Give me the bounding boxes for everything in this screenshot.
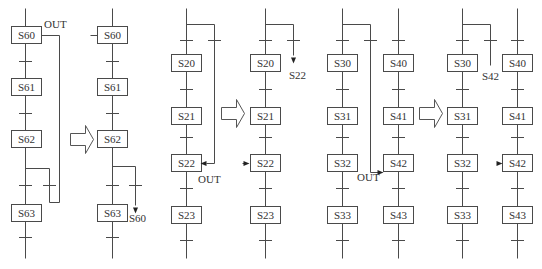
- step-s62: S62: [98, 131, 128, 148]
- step-label: S33: [454, 209, 472, 221]
- out-3-label: OUT: [357, 171, 380, 183]
- step-label: S31: [334, 110, 351, 122]
- step-s60: S60: [12, 27, 42, 44]
- step-label: S60: [104, 29, 122, 41]
- step-label: S32: [454, 157, 471, 169]
- step-s22: S22: [251, 155, 281, 172]
- step-s30: S30: [448, 55, 478, 72]
- step-s23: S23: [172, 207, 202, 224]
- step-s62: S62: [12, 131, 42, 148]
- step-label: S21: [257, 110, 274, 122]
- jump-s42-label: S42: [482, 70, 499, 82]
- step-s20: S20: [172, 55, 202, 72]
- step-label: S31: [454, 110, 471, 122]
- out-1-label: OUT: [44, 18, 67, 30]
- step-label: S42: [390, 157, 407, 169]
- step-s23: S23: [251, 207, 281, 224]
- step-s60: S60: [98, 27, 128, 44]
- out-2-label: OUT: [198, 173, 221, 185]
- step-label: S62: [18, 133, 35, 145]
- step-s31: S31: [448, 108, 478, 125]
- step-label: S22: [257, 157, 274, 169]
- step-label: S41: [509, 110, 526, 122]
- step-label: S42: [509, 157, 526, 169]
- sfc-diagram: S60S61S62S63S60S61S62S63S20S21S22S23S20S…: [0, 0, 542, 269]
- step-boxes: S60S61S62S63S60S61S62S63S20S21S22S23S20S…: [12, 27, 533, 224]
- step-s43: S43: [384, 207, 414, 224]
- step-label: S41: [390, 110, 407, 122]
- step-s33: S33: [448, 207, 478, 224]
- step-s22: S22: [172, 155, 202, 172]
- step-label: S23: [257, 209, 275, 221]
- step-label: S43: [509, 209, 527, 221]
- step-label: S43: [390, 209, 408, 221]
- step-label: S22: [178, 157, 195, 169]
- step-label: S40: [390, 57, 408, 69]
- step-s61: S61: [98, 79, 128, 96]
- step-label: S40: [509, 57, 527, 69]
- step-s20: S20: [251, 55, 281, 72]
- step-s63: S63: [12, 205, 42, 222]
- step-s21: S21: [251, 108, 281, 125]
- step-s42: S42: [384, 155, 414, 172]
- arrowhead-icon: [497, 161, 503, 166]
- step-s31: S31: [328, 108, 358, 125]
- step-label: S21: [178, 110, 195, 122]
- step-s30: S30: [328, 55, 358, 72]
- arrowheads: [133, 58, 503, 214]
- step-s21: S21: [172, 108, 202, 125]
- transform-arrow-icon: [420, 100, 443, 128]
- step-s33: S33: [328, 207, 358, 224]
- step-label: S63: [18, 207, 36, 219]
- transform-arrow-icon: [71, 126, 94, 154]
- step-label: S60: [18, 29, 36, 41]
- step-s32: S32: [328, 155, 358, 172]
- step-s41: S41: [503, 108, 533, 125]
- step-label: S20: [178, 57, 196, 69]
- step-label: S33: [334, 209, 352, 221]
- step-label: S61: [18, 81, 35, 93]
- transform-arrow-icon: [222, 100, 245, 128]
- step-label: S23: [178, 209, 196, 221]
- step-s61: S61: [12, 79, 42, 96]
- arrowhead-icon: [291, 58, 296, 64]
- step-s63: S63: [98, 205, 128, 222]
- step-s42: S42: [503, 155, 533, 172]
- step-s40: S40: [503, 55, 533, 72]
- step-label: S62: [104, 133, 121, 145]
- step-label: S63: [104, 207, 122, 219]
- step-s40: S40: [384, 55, 414, 72]
- step-label: S30: [454, 57, 472, 69]
- diagram-canvas: S60S61S62S63S60S61S62S63S20S21S22S23S20S…: [0, 0, 542, 269]
- step-label: S32: [334, 157, 351, 169]
- step-s32: S32: [448, 155, 478, 172]
- step-s43: S43: [503, 207, 533, 224]
- step-label: S30: [334, 57, 352, 69]
- step-label: S61: [104, 81, 121, 93]
- jump-s60-label: S60: [129, 212, 147, 224]
- step-s41: S41: [384, 108, 414, 125]
- arrowhead-icon: [244, 161, 250, 166]
- step-label: S20: [257, 57, 275, 69]
- jump-s22-label: S22: [289, 69, 306, 81]
